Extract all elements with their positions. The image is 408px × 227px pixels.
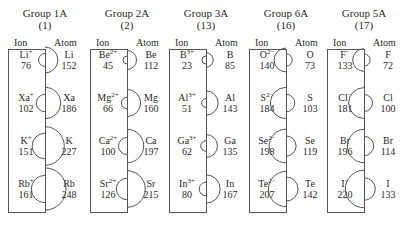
ion-radius-arc	[119, 138, 128, 155]
atom-radius-arc	[127, 171, 145, 208]
atom-radius-arc	[45, 47, 58, 73]
ion-radius-arc	[202, 99, 206, 108]
ion-radius-arc	[123, 56, 127, 64]
ion-radius-arc	[270, 87, 286, 118]
atom-radius-arc	[286, 94, 295, 112]
radius-circles	[4, 0, 86, 227]
ion-radius-arc	[274, 48, 286, 72]
ion-radius-arc	[349, 88, 364, 119]
ion-radius-arc	[199, 182, 206, 196]
ion-radius-arc	[353, 49, 364, 72]
atom-radius-arc	[364, 136, 374, 155]
ion-radius-arc	[201, 141, 206, 152]
radius-circles	[323, 0, 405, 227]
atom-radius-arc	[45, 127, 64, 166]
ion-radius-arc	[116, 178, 127, 199]
atom-radius-arc	[127, 50, 137, 69]
atom-radius-arc	[364, 95, 373, 112]
atom-radius-arc	[364, 54, 370, 66]
atom-radius-arc	[127, 89, 141, 116]
atom-radius-arc	[206, 53, 213, 67]
atom-radius-arc	[206, 175, 220, 203]
atom-radius-arc	[286, 177, 298, 201]
atom-radius-arc	[286, 136, 296, 156]
atom-radius-arc	[45, 87, 61, 119]
radius-circles	[245, 0, 327, 227]
atom-radius-arc	[364, 178, 375, 201]
ion-radius-arc	[32, 133, 45, 159]
radius-circles	[86, 0, 168, 227]
ion-radius-arc	[269, 129, 286, 163]
atom-radius-arc	[45, 168, 66, 210]
group-column: Group 2A(2)IonAtomBe2+45Be112Mg2+66Mg160…	[86, 0, 168, 227]
ion-radius-arc	[121, 97, 127, 108]
atom-radius-arc	[206, 135, 217, 158]
ion-radius-arc	[347, 129, 364, 162]
group-column: Group 3A(13)IonAtomB3+23B85Al3+51Al143Ga…	[165, 0, 247, 227]
ion-radius-arc	[36, 94, 45, 111]
ion-radius-arc	[345, 170, 364, 207]
atom-radius-arc	[127, 129, 144, 162]
atom-radius-arc	[286, 54, 292, 66]
atom-radius-arc	[206, 91, 218, 115]
ion-radius-arc	[31, 175, 45, 202]
ion-radius-arc	[39, 54, 45, 67]
group-column: Group 6A(16)IonAtomO2−140O73S2−184S103Se…	[245, 0, 327, 227]
radius-circles	[165, 0, 247, 227]
ion-radius-arc	[202, 56, 206, 64]
group-column: Group 1A(1)IonAtomLi+76Li152Xa+102Xa186K…	[4, 0, 86, 227]
group-column: Group 5A(17)IonAtomF−133F72Cl−181Cl100Br…	[323, 0, 405, 227]
ion-radius-arc	[268, 171, 286, 206]
